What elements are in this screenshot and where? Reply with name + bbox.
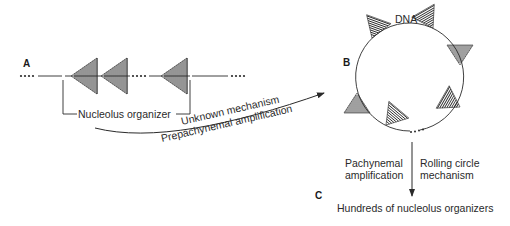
hundreds-of-nucleolus-organizers-label: Hundreds of nucleolus organizers: [337, 202, 493, 214]
panel-label-b: B: [343, 57, 350, 68]
pachynemal-label-line1: Pachynemal: [345, 157, 403, 169]
rolling-circle-label-line2: mechanism: [420, 169, 474, 181]
circular-dna: [356, 23, 464, 133]
linear-dna: [20, 75, 245, 77]
rdna-gene-icon: [447, 45, 473, 65]
rdna-gene-icon: [412, 4, 445, 34]
nucleolus-organizer-label: Nucleolus organizer: [78, 108, 171, 120]
rolling-circle-label-line1: Rolling circle: [420, 157, 480, 169]
pachynemal-label-line2: amplification: [345, 169, 404, 181]
panel-label-c: C: [315, 190, 322, 201]
rdna-gene-icon: [344, 93, 370, 113]
panel-label-a: A: [23, 58, 30, 69]
amplification-diagram: A Nucleolus organizer Unknown mechanism …: [0, 0, 510, 226]
